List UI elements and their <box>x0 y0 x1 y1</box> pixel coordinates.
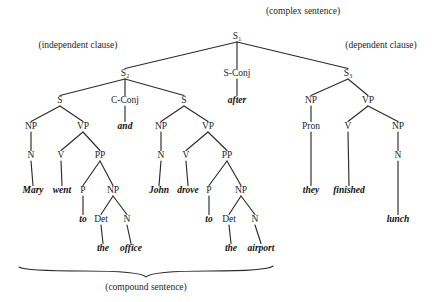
tree-node-cconj: C-Conj <box>111 95 139 105</box>
tree-node-np-l: NP <box>25 121 37 131</box>
leaf-the-1: the <box>97 243 110 253</box>
tree-edge <box>161 106 184 122</box>
leaf-office: office <box>120 243 143 253</box>
leaf-finished: finished <box>333 185 365 195</box>
tree-node-p-l: P <box>80 185 85 195</box>
tree-node-np-m2: NP <box>235 185 247 195</box>
tree-node-s2: S2 <box>121 68 129 79</box>
annotation-complex-sentence: (complex sentence) <box>266 6 340 17</box>
tree-node-s1: S1 <box>233 31 241 42</box>
tree-nodes: S1S2S-ConjS3SC-ConjSNPVPNPVPNPVPNVPPNVPP… <box>25 31 404 224</box>
tree-edge <box>209 161 227 186</box>
leaf-john: John <box>148 185 169 195</box>
tree-edge <box>101 196 113 215</box>
syntax-tree-diagram: S1S2S-ConjS3SC-ConjSNPVPNPVPNPVPNVPPNVPP… <box>0 0 444 302</box>
tree-node-p-m: P <box>206 185 211 195</box>
tree-edge <box>241 196 255 215</box>
tree-edge <box>127 225 131 244</box>
tree-edge <box>61 161 62 186</box>
leaf-went: went <box>53 185 72 195</box>
tree-edge <box>227 161 241 186</box>
tree-node-pp-l: PP <box>95 150 106 160</box>
leaf-they: they <box>303 185 320 195</box>
compound-sentence-brace <box>19 266 273 277</box>
tree-node-s2a: S <box>57 95 62 105</box>
tree-edge <box>229 225 231 244</box>
tree-edge <box>125 42 237 69</box>
tree-edge <box>31 161 33 186</box>
tree-edge <box>100 161 113 186</box>
tree-node-s3: S3 <box>344 68 352 79</box>
leaf-and: and <box>118 121 133 131</box>
annotation-dependent-clause: (dependent clause) <box>345 40 416 51</box>
compound-sentence-brace-path <box>19 266 273 277</box>
tree-node-pp-m: PP <box>222 150 233 160</box>
tree-edge <box>113 196 127 215</box>
tree-edge <box>368 106 398 122</box>
tree-node-np-r: NP <box>305 95 317 105</box>
annotation-independent-clause: (independent clause) <box>39 40 118 51</box>
tree-edge <box>255 225 261 244</box>
tree-node-n-r: N <box>395 150 402 160</box>
tree-edge <box>60 106 83 122</box>
tree-edge <box>61 132 83 151</box>
tree-node-v-m: V <box>183 150 190 160</box>
tree-edge <box>348 132 349 186</box>
tree-node-s2b: S <box>181 95 186 105</box>
leaf-the-2: the <box>225 243 238 253</box>
leaf-to-2: to <box>205 214 213 224</box>
leaf-airport: airport <box>248 243 275 253</box>
tree-edge <box>311 79 348 96</box>
tree-node-sconj: S-Conj <box>224 68 251 78</box>
tree-edge <box>101 225 103 244</box>
leaf-mary: Mary <box>21 185 44 195</box>
tree-node-np-r2: NP <box>392 121 404 131</box>
tree-edge <box>60 79 125 96</box>
tree-edge <box>348 79 368 96</box>
tree-node-vp-l: VP <box>77 121 89 131</box>
tree-node-pron-r: Pron <box>302 121 320 131</box>
tree-edge <box>159 161 161 186</box>
tree-node-v-r: V <box>345 121 352 131</box>
tree-edge <box>184 106 208 122</box>
tree-node-n-m2: N <box>252 214 259 224</box>
tree-node-n-m: N <box>158 150 165 160</box>
tree-node-det-l: Det <box>94 214 108 224</box>
tree-node-vp-r: VP <box>362 95 374 105</box>
tree-node-n-l: N <box>28 150 35 160</box>
tree-edge <box>208 132 227 151</box>
tree-node-det-m: Det <box>222 214 236 224</box>
tree-node-vp-m: VP <box>202 121 214 131</box>
tree-node-v-l: V <box>58 150 65 160</box>
tree-edge <box>237 42 348 69</box>
leaf-drove: drove <box>177 185 199 195</box>
tree-edge <box>186 132 208 151</box>
tree-node-np-l2: NP <box>107 185 119 195</box>
tree-edge <box>186 161 188 186</box>
tree-edge <box>348 106 368 122</box>
leaf-after: after <box>228 95 247 105</box>
tree-edge <box>31 106 60 122</box>
tree-edge <box>229 196 241 215</box>
tree-edge <box>83 161 100 186</box>
tree-node-n-l2: N <box>124 214 131 224</box>
leaf-lunch: lunch <box>387 214 410 224</box>
tree-edge <box>83 132 100 151</box>
tree-edge <box>125 79 184 96</box>
tree-node-np-m: NP <box>155 121 167 131</box>
annotation-compound-sentence: (compound sentence) <box>105 282 187 293</box>
leaf-to-1: to <box>79 214 87 224</box>
tree-canvas: S1S2S-ConjS3SC-ConjSNPVPNPVPNPVPNVPPNVPP… <box>0 0 444 302</box>
